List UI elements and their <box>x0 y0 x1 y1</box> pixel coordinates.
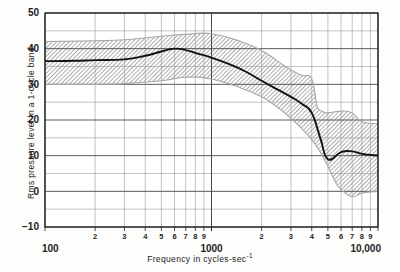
x-minor-tick-label: 3 <box>122 232 126 241</box>
x-axis-title: Frequency in cycles-sec-1 <box>0 252 400 264</box>
y-tick-label: −10 <box>22 221 39 232</box>
chart-plot-svg: −1001020304050 2345678923456789 10010001… <box>0 0 400 272</box>
x-minor-tick-label: 2 <box>260 232 264 241</box>
x-minor-tick-label: 4 <box>143 232 148 241</box>
x-minor-tick-label: 7 <box>184 232 188 241</box>
x-minor-tick-label: 5 <box>326 232 330 241</box>
x-minor-tick-label: 3 <box>289 232 293 241</box>
x-minor-tick-label: 9 <box>368 232 372 241</box>
x-axis-title-exponent: -1 <box>246 252 252 259</box>
x-axis-tick-marks <box>45 227 378 231</box>
x-minor-tick-label: 4 <box>310 232 315 241</box>
x-axis-title-text: Frequency in cycles-sec <box>147 254 246 264</box>
x-minor-tick-label: 6 <box>339 232 343 241</box>
x-minor-tick-label: 8 <box>193 232 197 241</box>
x-minor-tick-label: 9 <box>202 232 206 241</box>
x-minor-tick-label: 8 <box>360 232 364 241</box>
x-minor-tick-label: 6 <box>172 232 176 241</box>
x-axis-minor-tick-labels: 2345678923456789 <box>93 232 372 241</box>
y-axis-title: Rms pressure level in a 1-cycle band <box>26 38 36 208</box>
x-minor-tick-label: 2 <box>93 232 97 241</box>
x-minor-tick-label: 7 <box>350 232 354 241</box>
y-tick-label: 50 <box>28 7 40 18</box>
chart-figure: −1001020304050 2345678923456789 10010001… <box>0 0 400 272</box>
x-minor-tick-label: 5 <box>159 232 163 241</box>
